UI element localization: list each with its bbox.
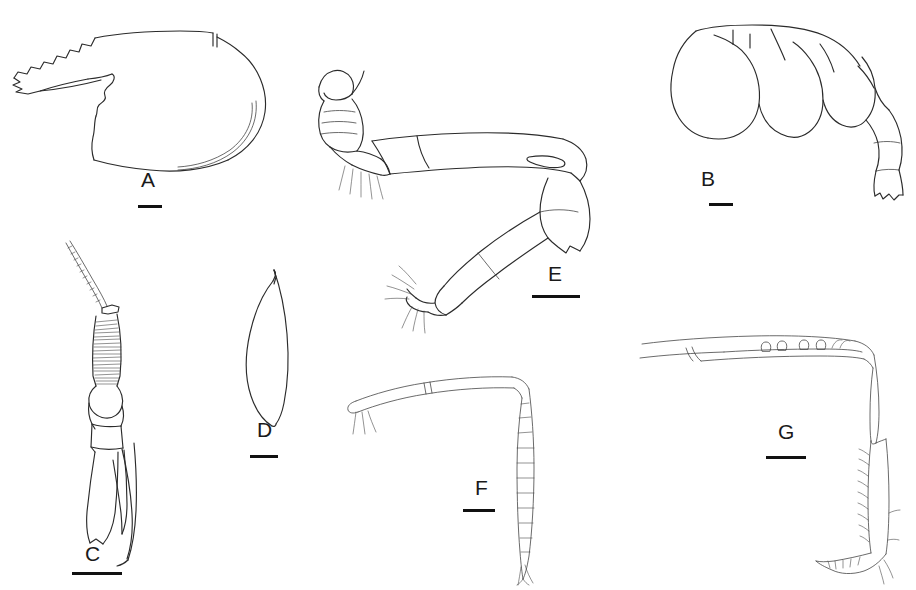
scale-bar-e [532,295,580,298]
plate-artwork [0,0,916,590]
panel-label-g: G [778,421,795,442]
panel-label-c: C [85,543,101,564]
panel-label-e: E [548,263,563,284]
scale-bar-c [72,572,122,575]
scale-bar-a [138,205,162,208]
scale-bar-b [709,203,733,206]
panel-label-f: F [475,477,488,498]
panel-e-drawing [319,70,590,333]
illustration-plate: A B C D E F G [0,0,916,590]
scale-bar-d [250,455,278,458]
panel-c-drawing [66,241,136,566]
panel-g-drawing [640,336,900,584]
panel-d-drawing [246,270,288,426]
scale-bar-g [766,456,806,459]
panel-f-drawing [348,377,534,585]
panel-a-drawing [13,31,266,171]
panel-label-b: B [701,168,716,189]
panel-label-d: D [257,419,273,440]
scale-bar-f [463,509,495,512]
panel-label-a: A [141,169,156,190]
